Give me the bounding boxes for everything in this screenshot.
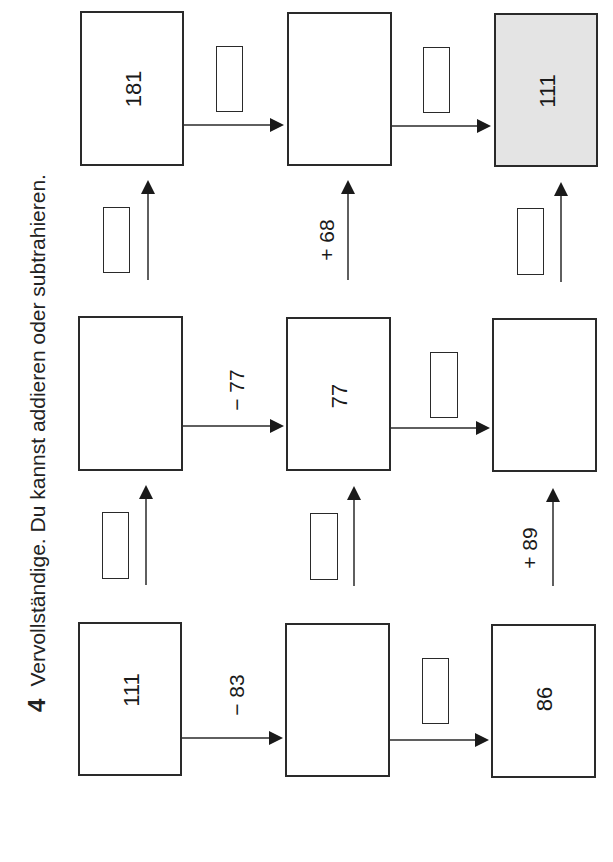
number-box-r1-c2[interactable] — [287, 12, 392, 166]
op-blank-r3-b[interactable] — [422, 658, 449, 724]
box-value: 181 — [123, 59, 145, 119]
number-box-r2-c3[interactable] — [492, 318, 597, 472]
box-value — [330, 60, 352, 120]
box-value: 77 — [329, 366, 351, 426]
box-value: 111 — [121, 660, 143, 720]
op-label-col3-up2: + 89 — [519, 518, 541, 578]
number-box-r1-c3-target[interactable]: 111 — [494, 13, 598, 167]
box-value — [535, 367, 557, 427]
op-blank-r1-b[interactable] — [423, 47, 450, 113]
op-label-col2-up1: + 68 — [316, 210, 338, 270]
op-blank-col2-up2[interactable] — [310, 513, 338, 580]
op-label-r3-a: − 83 — [226, 665, 248, 725]
number-box-r2-c1[interactable] — [78, 316, 183, 471]
number-box-r3-c1[interactable]: 111 — [78, 622, 182, 776]
op-blank-r1-a[interactable] — [216, 46, 243, 112]
box-value: 111 — [537, 61, 559, 121]
number-box-r3-c3[interactable]: 86 — [491, 624, 596, 778]
op-blank-col1-up2[interactable] — [102, 512, 129, 579]
box-value: 86 — [534, 669, 556, 729]
number-box-r3-c2[interactable] — [285, 623, 390, 777]
number-box-r2-c2[interactable]: 77 — [286, 317, 391, 471]
box-value — [121, 365, 143, 425]
op-blank-col1-up1[interactable] — [103, 207, 130, 273]
op-blank-r2-b[interactable] — [430, 352, 458, 418]
box-value — [328, 661, 350, 721]
number-box-r1-c1[interactable]: 181 — [80, 11, 184, 166]
op-blank-col3-up1[interactable] — [517, 208, 544, 275]
op-label-r2-a: − 77 — [226, 360, 248, 420]
